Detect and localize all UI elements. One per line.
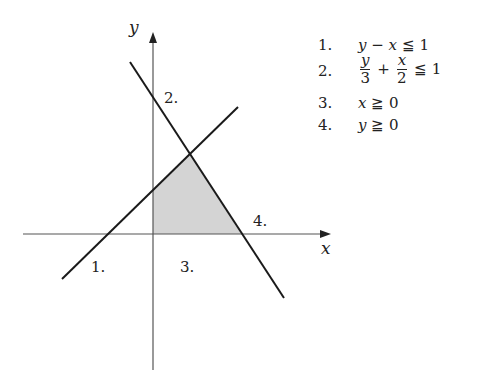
y-axis-label: y [129,17,139,37]
line-label-1: 1. [91,258,105,276]
fraction-y-over-3: y3 [360,52,370,87]
fraction-x-over-2: x2 [397,52,407,87]
constraint-number: 4. [318,116,332,134]
x-axis-label: x [321,238,331,258]
line-label-2: 2. [164,89,178,107]
line-label-4: 4. [253,212,267,230]
constraint-number: 3. [318,94,332,112]
y-axis-arrow-icon [149,32,157,43]
constraint-number: 2. [318,62,332,80]
x-axis-arrow-icon [320,230,331,238]
constraint-2: 2. y3 + x2 ≦ 1 [318,52,488,92]
line-label-3: 3. [180,258,194,276]
